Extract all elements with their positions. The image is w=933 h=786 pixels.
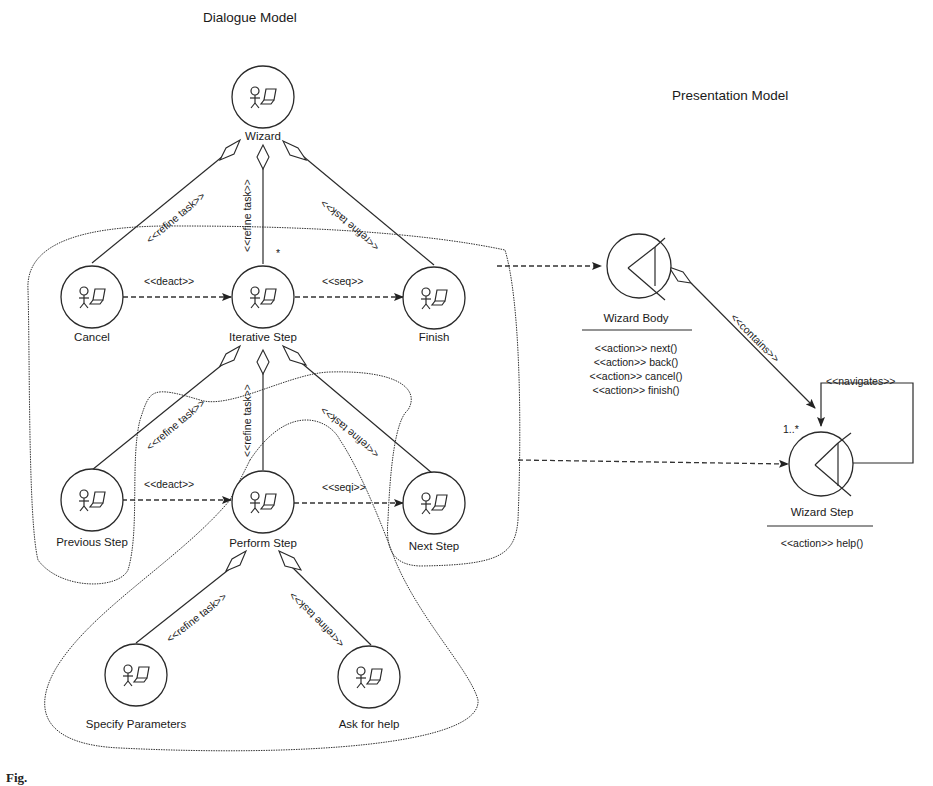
node-ask-for-help[interactable]: Ask for help [338,646,400,730]
svg-text:Ask for help: Ask for help [339,718,400,730]
iterative-multiplicity: * [276,247,280,259]
svg-text:Wizard Step: Wizard Step [791,506,854,518]
step-group-outline [45,420,478,751]
node-previous-step[interactable]: Previous Step [56,469,128,548]
operation-back: <<action>> back() [594,356,679,368]
edge-label-wizard-cancel: <<refine task>> [144,189,208,245]
svg-text:Wizard Body: Wizard Body [603,312,668,324]
edge-label-cancel-iterative: <<deact>> [144,275,194,287]
class-wizard-body[interactable]: Wizard Body <<action>> next() <<action>>… [582,234,692,396]
class-wizard-step[interactable]: Wizard Step <<action>> help() [767,432,873,549]
link-arrow-to-wizard-step [518,460,788,464]
contains-multiplicity: 1..* [783,423,799,435]
node-cancel[interactable]: Cancel [61,266,123,343]
node-specify-parameters[interactable]: Specify Parameters [86,644,187,730]
svg-text:Next Step: Next Step [409,540,460,552]
node-wizard[interactable]: Wizard [232,66,294,142]
node-finish[interactable]: Finish [403,267,465,343]
svg-text:Cancel: Cancel [74,331,110,343]
operation-next: <<action>> next() [595,342,677,354]
svg-text:Perform Step: Perform Step [229,537,297,549]
node-perform-step[interactable]: Perform Step [229,471,297,549]
edge-label-perform-next: <<seqi>> [322,481,366,493]
figure-caption: Fig. [6,770,27,786]
edge-label-perform-ask: <<refine task>> [286,590,346,650]
edge-label-navigates: <<navigates>> [826,375,895,387]
edge-label-iterative-perform: <<refine task>> [241,384,253,457]
edge-label-iterative-previous: <<refine task>> [144,396,208,452]
operation-cancel: <<action>> cancel() [590,370,683,382]
presentation-model-title: Presentation Model [672,88,788,103]
edge-label-wizard-iterative: <<refine task>> [241,179,253,252]
svg-text:Iterative Step: Iterative Step [229,331,297,343]
dialogue-model-title: Dialogue Model [203,10,297,25]
edge-label-wizard-finish: <<refine task>> [318,198,382,254]
operation-finish: <<action>> finish() [593,384,680,396]
operation-help: <<action>> help() [781,537,863,549]
svg-text:Specify Parameters: Specify Parameters [86,718,187,730]
node-next-step[interactable]: Next Step [403,472,465,552]
svg-text:Finish: Finish [419,331,450,343]
edge-label-iterative-finish: <<seq>> [322,275,363,287]
edge-label-iterative-next: <<refine task>> [318,405,382,461]
contains-edge [691,283,815,408]
svg-text:Previous Step: Previous Step [56,536,128,548]
edge-label-perform-specify: <<refine task>> [164,590,229,644]
svg-text:Wizard: Wizard [245,130,281,142]
refine-task-edges [92,152,434,645]
edge-label-previous-perform: <<deact>> [144,478,194,490]
edge-label-contains: <<contains>> [729,311,782,364]
